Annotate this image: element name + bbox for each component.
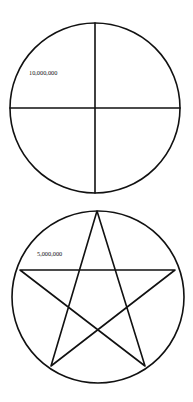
pentagram-circle-diagram: 5,000,000 [12,211,184,383]
value-label: 10,000,000 [29,69,57,76]
quartered-circle-diagram: 10,000,000 [10,23,180,193]
value-label: 5,000,000 [37,250,62,257]
outer-circle [12,211,184,383]
diagram-canvas: 10,000,000 5,000,000 [0,0,193,402]
pentagram-star [20,211,175,366]
